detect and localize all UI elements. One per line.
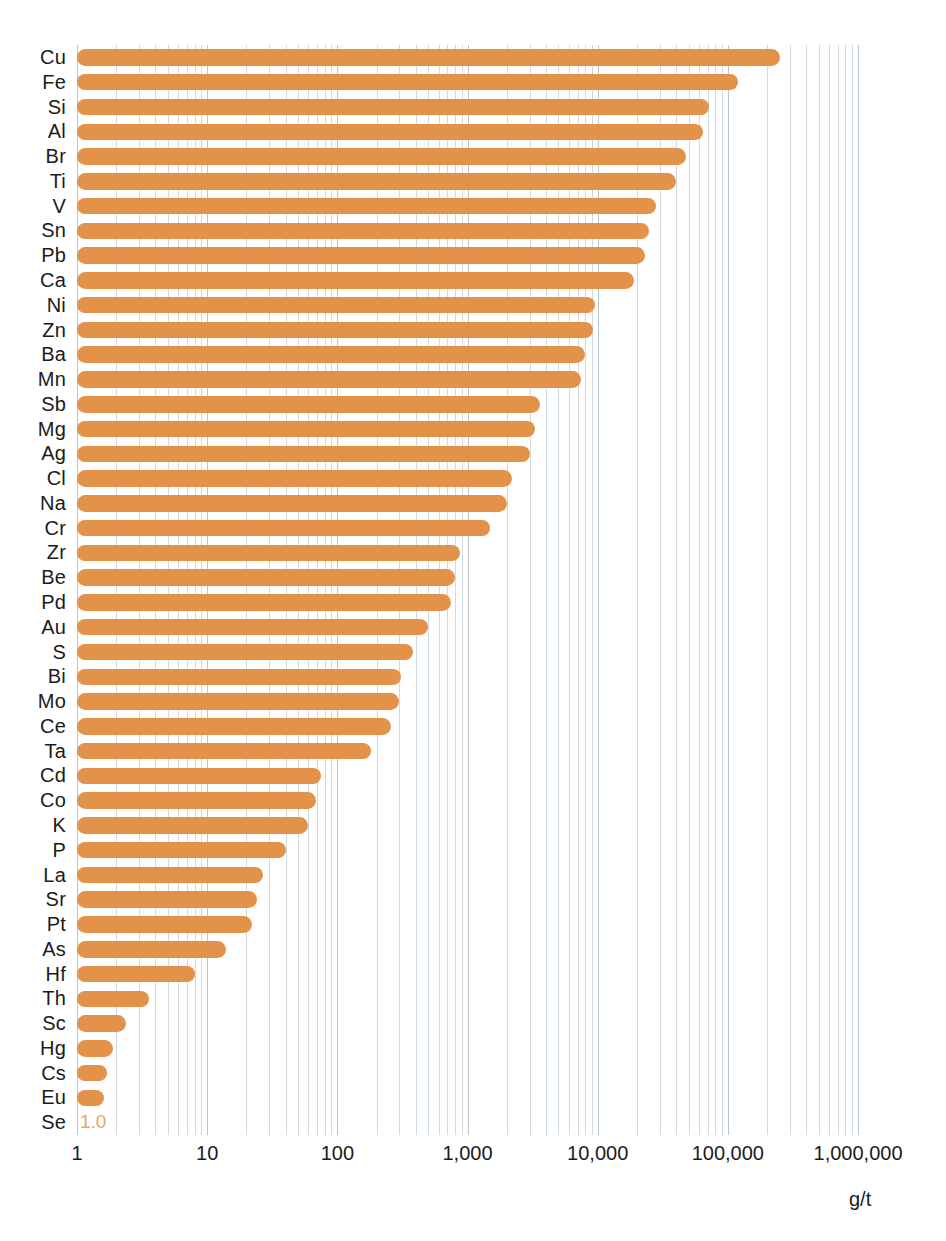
bar-row-label: Cu bbox=[0, 45, 66, 70]
bar-row: Se1.0 bbox=[0, 1110, 946, 1135]
bar bbox=[77, 867, 263, 884]
bar bbox=[77, 991, 149, 1008]
bar-row: Ba bbox=[0, 342, 946, 367]
bar bbox=[77, 446, 530, 463]
bar bbox=[77, 520, 490, 537]
bar-row-label: Ti bbox=[0, 169, 66, 194]
bar-row-label: La bbox=[0, 863, 66, 888]
x-axis-tick-label: 10 bbox=[196, 1142, 218, 1165]
bar bbox=[77, 644, 413, 661]
bar-row-label: Pt bbox=[0, 912, 66, 937]
bar-row-label: Bi bbox=[0, 664, 66, 689]
bar bbox=[77, 569, 455, 586]
bar-row: Be bbox=[0, 565, 946, 590]
bar-row: Pt bbox=[0, 912, 946, 937]
bar-row: As bbox=[0, 937, 946, 962]
bar bbox=[77, 743, 371, 760]
bar bbox=[77, 916, 252, 933]
bar bbox=[77, 941, 226, 958]
bar bbox=[77, 124, 703, 141]
bar-row-label: Ta bbox=[0, 739, 66, 764]
bar-row: Sb bbox=[0, 392, 946, 417]
bar bbox=[77, 693, 399, 710]
bar bbox=[77, 371, 581, 388]
bar-row: S bbox=[0, 640, 946, 665]
bar bbox=[77, 99, 709, 116]
bar-row: Bi bbox=[0, 664, 946, 689]
bar-row: Br bbox=[0, 144, 946, 169]
bar bbox=[77, 817, 308, 834]
bar bbox=[77, 198, 656, 215]
x-axis-tick-label: 10,000 bbox=[567, 1142, 628, 1165]
bar-row: Co bbox=[0, 788, 946, 813]
x-axis-tick-label: 1,000 bbox=[442, 1142, 492, 1165]
bar-row-label: Be bbox=[0, 565, 66, 590]
bar bbox=[77, 1015, 126, 1032]
bar-row-label: Se bbox=[0, 1110, 66, 1135]
bar-row: Sr bbox=[0, 887, 946, 912]
bar-row-label: Sb bbox=[0, 392, 66, 417]
bar bbox=[77, 768, 321, 785]
bar bbox=[77, 223, 649, 240]
bar-row-label: Co bbox=[0, 788, 66, 813]
bar-row: Zr bbox=[0, 540, 946, 565]
x-axis-unit-label: g/t bbox=[849, 1188, 871, 1211]
bar bbox=[77, 792, 316, 809]
bar-row: Th bbox=[0, 986, 946, 1011]
bar bbox=[77, 842, 286, 859]
x-axis-tick-label: 100,000 bbox=[692, 1142, 764, 1165]
bar bbox=[77, 718, 391, 735]
bar bbox=[77, 247, 645, 264]
bar bbox=[77, 891, 257, 908]
bar-row-label: S bbox=[0, 640, 66, 665]
bar-row: Cs bbox=[0, 1061, 946, 1086]
bar-row: V bbox=[0, 194, 946, 219]
bar-row-label: Fe bbox=[0, 70, 66, 95]
bar-row-label: Cr bbox=[0, 516, 66, 541]
bar-row: Cl bbox=[0, 466, 946, 491]
bar-row: P bbox=[0, 838, 946, 863]
bar-row-label: Cd bbox=[0, 763, 66, 788]
bar-row-label: Th bbox=[0, 986, 66, 1011]
x-axis-tick-label: 100 bbox=[321, 1142, 354, 1165]
bar-chart-figure: CuFeSiAlBrTiVSnPbCaNiZnBaMnSbMgAgClNaCrZ… bbox=[0, 0, 946, 1241]
bar-row: Hg bbox=[0, 1036, 946, 1061]
bar-row-label: Eu bbox=[0, 1085, 66, 1110]
bar-row-label: Au bbox=[0, 615, 66, 640]
bar-row: Zn bbox=[0, 318, 946, 343]
bar-row: Ca bbox=[0, 268, 946, 293]
bar-row: Au bbox=[0, 615, 946, 640]
bar-row: Mo bbox=[0, 689, 946, 714]
bar-row-label: Hg bbox=[0, 1036, 66, 1061]
x-axis-tick-label: 1,000,000 bbox=[814, 1142, 903, 1165]
bar-row: Ag bbox=[0, 441, 946, 466]
bar-row-label: K bbox=[0, 813, 66, 838]
bar bbox=[77, 594, 451, 611]
bar-row-label: Ba bbox=[0, 342, 66, 367]
bar bbox=[77, 74, 738, 91]
bar bbox=[77, 346, 585, 363]
bar bbox=[77, 272, 634, 289]
bar-value-label: 1.0 bbox=[80, 1110, 106, 1135]
bar bbox=[77, 1090, 104, 1107]
bar-row: Ta bbox=[0, 739, 946, 764]
bar bbox=[77, 173, 676, 190]
bar-row: Fe bbox=[0, 70, 946, 95]
bar bbox=[77, 545, 460, 562]
bar bbox=[77, 495, 507, 512]
bar-row-label: Hf bbox=[0, 962, 66, 987]
figure-caption bbox=[32, 1231, 532, 1241]
bar-row-label: V bbox=[0, 194, 66, 219]
bar-row-label: As bbox=[0, 937, 66, 962]
bar-row: K bbox=[0, 813, 946, 838]
bar-row: Pb bbox=[0, 243, 946, 268]
bar-row: Cu bbox=[0, 45, 946, 70]
bar-row-label: Ca bbox=[0, 268, 66, 293]
bar-row: Sn bbox=[0, 218, 946, 243]
bar-row: Na bbox=[0, 491, 946, 516]
bar-row-label: Pb bbox=[0, 243, 66, 268]
bar-row-label: Br bbox=[0, 144, 66, 169]
bar-row-label: Si bbox=[0, 95, 66, 120]
bar bbox=[77, 1040, 113, 1057]
bar-row-label: Ni bbox=[0, 293, 66, 318]
